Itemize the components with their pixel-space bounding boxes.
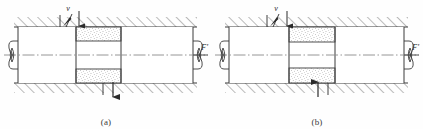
lining-lower-block: [289, 68, 335, 83]
housing-bottom-wall: [225, 83, 408, 93]
panel-b-caption: (b): [211, 117, 423, 127]
panel-a-drawing: v F': [0, 0, 212, 110]
lining-upper-block: [76, 27, 121, 41]
diagram-panel-a: v F' (a): [0, 0, 212, 129]
velocity-label: v: [66, 4, 70, 13]
housing-bottom-wall: [14, 83, 197, 93]
velocity-label: v: [274, 4, 278, 13]
left-break-symbol: [9, 41, 18, 69]
housing-top-wall: [14, 17, 197, 27]
panel-b-drawing: v F': [211, 0, 423, 110]
lining-upper-block: [289, 27, 335, 42]
lining-lower-block: [76, 69, 121, 83]
left-break-symbol: [220, 41, 229, 69]
figure-canvas: v F' (a): [0, 0, 423, 129]
panel-a-caption: (a): [0, 117, 212, 127]
force-label: F': [200, 42, 208, 52]
force-label: F': [411, 42, 419, 52]
housing-top-wall: [225, 17, 408, 27]
diagram-panel-b: v F' (b): [211, 0, 423, 129]
